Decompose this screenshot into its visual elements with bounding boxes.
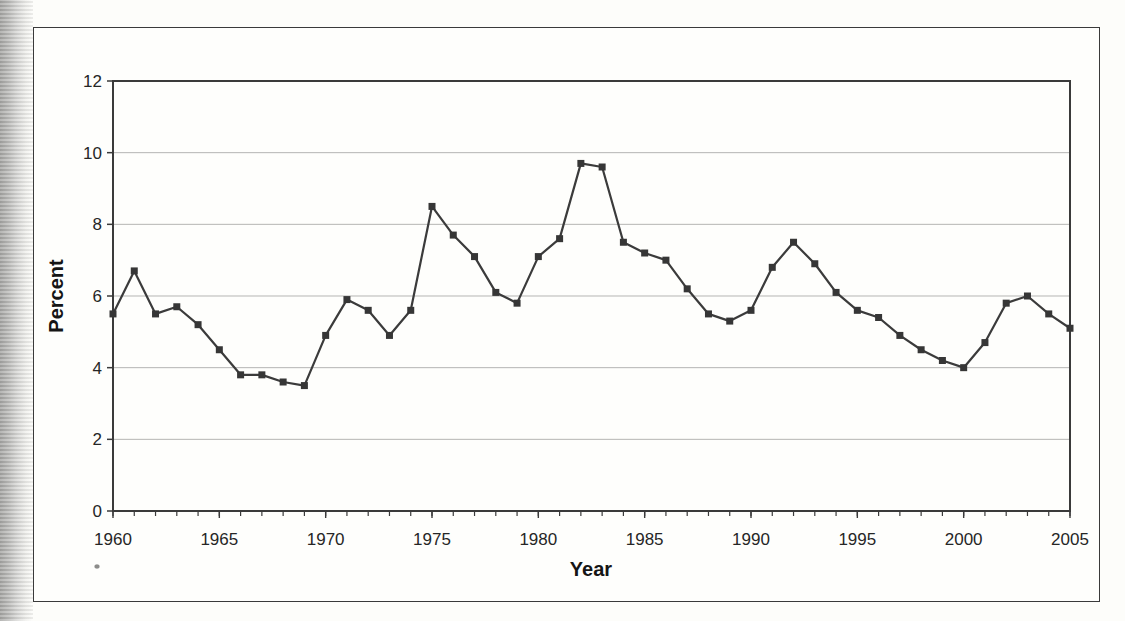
data-point-marker-2004 — [1045, 310, 1052, 317]
data-point-marker-1967 — [258, 371, 265, 378]
y-tick-label-6: 6 — [93, 287, 102, 306]
data-point-marker-2001 — [981, 339, 988, 346]
data-point-marker-1979 — [514, 300, 521, 307]
x-tick-label-1980: 1980 — [519, 530, 557, 549]
x-tick-labels: 1960196519701975198019851990199520002005 — [94, 530, 1089, 549]
data-point-marker-1976 — [450, 232, 457, 239]
data-point-marker-1969 — [301, 382, 308, 389]
y-tick-label-2: 2 — [93, 430, 102, 449]
data-point-marker-1974 — [407, 307, 414, 314]
data-point-marker-1983 — [599, 164, 606, 171]
data-point-marker-1970 — [322, 332, 329, 339]
x-axis-ticks — [113, 511, 1070, 518]
data-point-marker-1989 — [726, 318, 733, 325]
data-point-marker-1962 — [152, 310, 159, 317]
data-point-marker-1994 — [833, 289, 840, 296]
y-axis-title: Percent — [45, 259, 67, 333]
data-point-marker-1991 — [769, 264, 776, 271]
data-point-marker-1963 — [173, 303, 180, 310]
x-tick-label-2000: 2000 — [945, 530, 983, 549]
data-point-marker-1998 — [918, 346, 925, 353]
scanned-page: 024681012 196019651970197519801985199019… — [0, 0, 1125, 621]
data-point-marker-1985 — [641, 250, 648, 257]
x-tick-label-1970: 1970 — [307, 530, 345, 549]
data-point-marker-1964 — [195, 321, 202, 328]
data-point-marker-1978 — [492, 289, 499, 296]
data-point-marker-1968 — [280, 379, 287, 386]
data-point-marker-1981 — [556, 235, 563, 242]
data-point-marker-1988 — [705, 310, 712, 317]
data-point-marker-1992 — [790, 239, 797, 246]
data-point-marker-1982 — [577, 160, 584, 167]
y-tick-labels: 024681012 — [83, 72, 102, 521]
y-tick-label-10: 10 — [83, 144, 102, 163]
x-tick-label-1975: 1975 — [413, 530, 451, 549]
x-tick-label-1995: 1995 — [838, 530, 876, 549]
x-axis-title: Year — [570, 558, 612, 580]
y-tick-label-12: 12 — [83, 72, 102, 91]
data-point-marker-1996 — [875, 314, 882, 321]
data-line-0 — [113, 163, 1070, 385]
data-point-marker-1980 — [535, 253, 542, 260]
data-point-marker-1984 — [620, 239, 627, 246]
y-tick-label-0: 0 — [93, 502, 102, 521]
data-point-marker-2005 — [1067, 325, 1074, 332]
chart-svg: 024681012 196019651970197519801985199019… — [0, 0, 1125, 621]
data-point-marker-1971 — [343, 296, 350, 303]
data-point-marker-1987 — [684, 285, 691, 292]
x-tick-label-2005: 2005 — [1051, 530, 1089, 549]
data-point-marker-1990 — [748, 307, 755, 314]
data-point-marker-1965 — [216, 346, 223, 353]
data-point-marker-1960 — [110, 310, 117, 317]
data-point-marker-1972 — [365, 307, 372, 314]
data-point-marker-1975 — [429, 203, 436, 210]
x-tick-label-1965: 1965 — [200, 530, 238, 549]
y-tick-label-8: 8 — [93, 215, 102, 234]
data-point-marker-2002 — [1003, 300, 1010, 307]
data-point-marker-1993 — [811, 260, 818, 267]
data-point-marker-1999 — [939, 357, 946, 364]
data-point-marker-1973 — [386, 332, 393, 339]
data-point-marker-2000 — [960, 364, 967, 371]
x-tick-label-1990: 1990 — [732, 530, 770, 549]
data-point-marker-1986 — [662, 257, 669, 264]
data-point-marker-2003 — [1024, 293, 1031, 300]
data-point-marker-1961 — [131, 267, 138, 274]
data-point-marker-1997 — [896, 332, 903, 339]
gridlines — [113, 153, 1070, 440]
y-tick-label-4: 4 — [93, 359, 102, 378]
x-tick-label-1985: 1985 — [626, 530, 664, 549]
data-point-marker-1966 — [237, 371, 244, 378]
data-series — [110, 160, 1074, 389]
x-tick-label-1960: 1960 — [94, 530, 132, 549]
data-point-marker-1977 — [471, 253, 478, 260]
data-point-marker-1995 — [854, 307, 861, 314]
